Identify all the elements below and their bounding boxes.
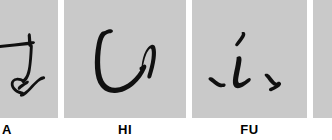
glyph-next-drawing — [313, 0, 332, 118]
sample-panel-fu — [192, 0, 307, 118]
glyph-fu-drawing — [192, 0, 307, 118]
sample-caption-fu: FU — [192, 120, 307, 140]
glyph-a-drawing — [0, 0, 58, 118]
sample-panel-next-clipped — [313, 0, 332, 118]
sample-panel-a — [0, 0, 58, 118]
sample-caption-a: A — [2, 120, 58, 140]
glyph-hi-drawing — [64, 0, 186, 118]
sample-panel-hi — [64, 0, 186, 118]
handwriting-sample-figure: A HI FU — [0, 0, 332, 140]
sample-caption-hi: HI — [64, 120, 186, 140]
